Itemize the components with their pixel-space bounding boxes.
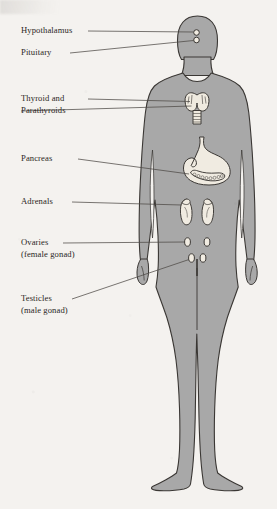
label-thyroid: Thyroid and Parathyroids	[21, 93, 66, 116]
body-silhouette	[137, 16, 257, 491]
scan-artifact	[0, 0, 60, 14]
label-pituitary-text: Pituitary	[21, 47, 52, 57]
label-hypothalamus-text: Hypothalamus	[21, 25, 72, 35]
label-adrenals-text: Adrenals	[21, 196, 53, 206]
label-thyroid-text: Thyroid and	[21, 93, 64, 103]
label-ovaries-text: Ovaries	[21, 237, 48, 247]
ovary-left	[185, 238, 191, 246]
label-testicles: Testicles (male gonad)	[21, 293, 68, 316]
label-ovaries-sub: (female gonad)	[21, 249, 75, 261]
label-hypothalamus: Hypothalamus	[21, 25, 72, 37]
label-pancreas: Pancreas	[21, 153, 52, 165]
adrenal-left	[180, 199, 192, 225]
label-thyroid-sub: Parathyroids	[21, 105, 66, 117]
ovary-right	[204, 238, 210, 246]
adrenal-right	[202, 199, 214, 225]
label-adrenals: Adrenals	[21, 196, 53, 208]
testicle-left	[189, 254, 195, 262]
label-pancreas-text: Pancreas	[21, 153, 52, 163]
leader-hypothalamus	[88, 31, 194, 32]
hypothalamus-gland	[194, 30, 200, 36]
label-ovaries: Ovaries (female gonad)	[21, 237, 75, 260]
label-pituitary: Pituitary	[21, 47, 52, 59]
hand-left	[137, 259, 149, 285]
testicle-right	[200, 254, 206, 262]
label-testicles-text: Testicles	[21, 293, 52, 303]
pituitary-gland	[194, 37, 200, 43]
leader-pituitary	[70, 41, 194, 54]
label-testicles-sub: (male gonad)	[21, 305, 68, 317]
neck-shape	[181, 57, 214, 76]
hand-right	[246, 259, 258, 285]
